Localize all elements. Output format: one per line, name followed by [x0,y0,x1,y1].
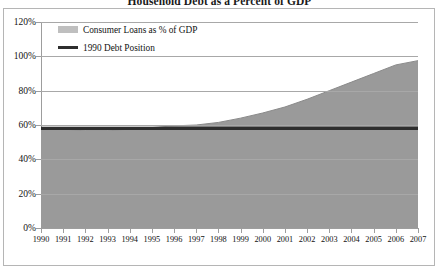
gridline [41,125,418,126]
x-tick-mark [63,229,64,233]
chart-legend: Consumer Loans as % of GDP 1990 Debt Pos… [58,23,258,59]
x-tick-mark [263,229,264,233]
x-tick-mark [41,229,42,233]
x-tick-mark [130,229,131,233]
x-tick-mark [85,229,86,233]
x-tick-mark [374,229,375,233]
x-tick-mark [285,229,286,233]
y-tick-label: 40% [2,154,36,164]
legend-item-consumer-loans: Consumer Loans as % of GDP [58,23,258,36]
x-tick-label: 2005 [365,235,382,244]
x-tick-mark [108,229,109,233]
y-tick-label: 120% [2,17,36,27]
gridline [41,194,418,195]
x-axis-line [41,228,419,229]
x-tick-label: 2006 [388,235,405,244]
x-tick-mark [174,229,175,233]
x-tick-label: 2000 [254,235,271,244]
x-tick-mark [152,229,153,233]
y-tick-label: 100% [2,51,36,61]
x-tick-label: 1993 [99,235,116,244]
x-tick-label: 1994 [121,235,138,244]
y-tick-mark [36,194,41,195]
x-tick-label: 1992 [77,235,94,244]
x-tick-mark [241,229,242,233]
line-swatch-icon [58,46,78,49]
y-tick-mark [36,125,41,126]
x-tick-mark [196,229,197,233]
x-tick-label: 1998 [210,235,227,244]
x-tick-label: 2002 [299,235,316,244]
x-tick-label: 2004 [343,235,360,244]
legend-item-debt-position: 1990 Debt Position [58,41,258,54]
x-tick-mark [218,229,219,233]
y-tick-mark [36,22,41,23]
x-tick-label: 1999 [232,235,249,244]
x-tick-label: 1995 [144,235,161,244]
x-tick-label: 1990 [33,235,50,244]
y-tick-label: 80% [2,86,36,96]
x-tick-mark [351,229,352,233]
y-axis-tick-labels: 0%20%40%60%80%100%120% [0,0,36,271]
x-tick-label: 1996 [166,235,183,244]
x-tick-mark [329,229,330,233]
y-tick-mark [36,56,41,57]
chart-figure: Household Debt as a Percent of GDP 0%20%… [0,0,439,271]
gridline [41,159,418,160]
y-tick-label: 20% [2,189,36,199]
x-axis-tick-labels: 1990199119921993199419951996199719981999… [41,235,419,249]
x-tick-mark [396,229,397,233]
x-tick-label: 2001 [277,235,294,244]
x-tick-label: 2007 [410,235,427,244]
x-tick-label: 1991 [55,235,72,244]
consumer-loans-area [41,61,418,228]
y-tick-mark [36,91,41,92]
x-tick-mark [418,229,419,233]
x-tick-label: 2003 [321,235,338,244]
legend-item-label: 1990 Debt Position [83,43,155,53]
legend-item-label: Consumer Loans as % of GDP [83,25,197,35]
chart-title: Household Debt as a Percent of GDP [0,0,439,8]
x-tick-label: 1997 [188,235,205,244]
y-tick-label: 60% [2,120,36,130]
x-tick-mark [307,229,308,233]
y-tick-label: 0% [2,223,36,233]
y-tick-mark [36,159,41,160]
area-swatch-icon [58,26,78,33]
gridline [41,91,418,92]
